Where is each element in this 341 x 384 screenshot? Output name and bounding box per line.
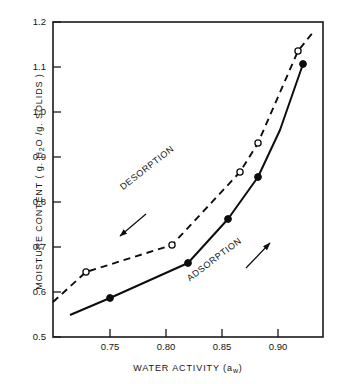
xtick-label-0-85: 0.85 [205, 341, 239, 352]
desorption-arrow [120, 214, 146, 236]
plot-frame [53, 22, 323, 337]
ytick-label-1-2: 1.2 [20, 16, 46, 27]
y-axis-title: MOISTURE CONTENT ( g. H2O /g. SOLIDS ) [34, 67, 45, 297]
x-axis-title-post: ) [239, 363, 243, 373]
figure-container: 1.2 1.1 1.0 0.9 0.8 0.7 0.6 0.5 0.75 0.8… [0, 0, 341, 384]
ytick-label-0-5: 0.5 [20, 331, 46, 342]
xtick-label-0-90: 0.90 [261, 341, 295, 352]
xtick-label-0-75: 0.75 [93, 341, 127, 352]
desorption-curve [53, 31, 314, 302]
y-axis-title-mid: O /g. SOLIDS ) [34, 73, 44, 146]
x-axis-title: WATER ACTIVITY (aw) [53, 363, 323, 374]
xtick-label-0-80: 0.80 [149, 341, 183, 352]
desorption-markers [83, 48, 301, 275]
x-axis-title-pre: WATER ACTIVITY (a [133, 363, 233, 373]
y-axis-ticks [53, 22, 61, 337]
x-axis-ticks [110, 329, 278, 337]
sorption-isotherm-chart [0, 0, 341, 384]
y-axis-title-subscript: 2 [38, 146, 45, 151]
y-axis-title-pre: MOISTURE CONTENT ( g. H [34, 151, 44, 290]
adsorption-arrow [246, 243, 270, 268]
